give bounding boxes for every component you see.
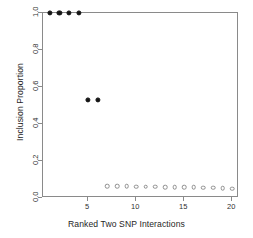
y-axis-tick-label: 1.0	[32, 4, 40, 20]
data-point	[134, 185, 139, 190]
data-point	[163, 185, 168, 190]
data-point	[124, 184, 129, 189]
data-point	[115, 184, 120, 189]
data-point	[192, 185, 197, 190]
data-point	[66, 10, 71, 15]
x-axis-title: Ranked Two SNP Interactions	[0, 219, 253, 229]
x-axis-tick-label: 10	[131, 203, 139, 211]
y-axis-title: Inclusion Proportion	[15, 32, 25, 172]
y-axis-tick-label: 0.2	[32, 152, 40, 168]
data-point	[172, 185, 177, 190]
scatter-plot-figure: 5101520 0.00.20.40.60.81.0 Ranked Two SN…	[0, 0, 253, 238]
x-axis-tick	[135, 197, 136, 201]
x-axis-tick	[183, 197, 184, 201]
data-point	[86, 97, 91, 102]
data-point	[105, 184, 110, 189]
data-point	[201, 185, 206, 190]
data-point	[220, 186, 225, 191]
data-point	[211, 186, 216, 191]
x-axis-tick-label: 20	[227, 203, 235, 211]
x-axis-tick-label: 15	[179, 203, 187, 211]
data-point	[47, 10, 52, 15]
data-point	[57, 10, 62, 15]
data-point	[182, 185, 187, 190]
x-axis-tick-label: 5	[85, 203, 89, 211]
data-point	[153, 185, 158, 190]
plot-area	[43, 13, 237, 196]
y-axis-tick-label: 0.8	[32, 41, 40, 57]
data-point	[76, 10, 81, 15]
data-point	[144, 185, 149, 190]
data-point	[95, 97, 100, 102]
y-axis-tick-label: 0.4	[32, 115, 40, 131]
y-axis-tick-label: 0.6	[32, 78, 40, 94]
y-axis-tick-label: 0.0	[32, 189, 40, 205]
x-axis-tick	[87, 197, 88, 201]
x-axis-tick	[231, 197, 232, 201]
plot-frame	[42, 12, 238, 197]
data-point	[230, 186, 235, 191]
